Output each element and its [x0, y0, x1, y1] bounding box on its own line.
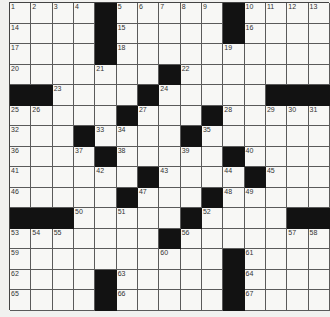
grid-cell[interactable] [245, 65, 266, 86]
grid-cell[interactable] [95, 106, 116, 127]
grid-cell[interactable]: 20 [10, 65, 31, 86]
grid-cell[interactable] [266, 249, 287, 270]
grid-cell[interactable] [309, 147, 330, 168]
grid-cell[interactable]: 66 [117, 290, 138, 311]
grid-cell[interactable] [245, 106, 266, 127]
grid-cell[interactable] [138, 147, 159, 168]
grid-cell[interactable] [266, 147, 287, 168]
grid-cell[interactable] [31, 188, 52, 209]
grid-cell[interactable] [202, 44, 223, 65]
grid-cell[interactable]: 54 [31, 229, 52, 250]
grid-cell[interactable] [138, 44, 159, 65]
grid-cell[interactable] [31, 270, 52, 291]
grid-cell[interactable]: 13 [309, 3, 330, 24]
grid-cell[interactable] [245, 229, 266, 250]
grid-cell[interactable] [159, 106, 180, 127]
grid-cell[interactable] [309, 249, 330, 270]
grid-cell[interactable] [309, 167, 330, 188]
grid-cell[interactable]: 33 [95, 126, 116, 147]
grid-cell[interactable] [202, 270, 223, 291]
grid-cell[interactable] [181, 44, 202, 65]
grid-cell[interactable] [181, 24, 202, 45]
grid-cell[interactable]: 10 [245, 3, 266, 24]
grid-cell[interactable]: 31 [309, 106, 330, 127]
grid-cell[interactable]: 30 [287, 106, 308, 127]
grid-cell[interactable]: 27 [138, 106, 159, 127]
grid-cell[interactable] [74, 290, 95, 311]
grid-cell[interactable] [74, 65, 95, 86]
grid-cell[interactable] [74, 167, 95, 188]
grid-cell[interactable]: 43 [159, 167, 180, 188]
grid-cell[interactable]: 37 [74, 147, 95, 168]
grid-cell[interactable] [53, 270, 74, 291]
grid-cell[interactable] [74, 270, 95, 291]
grid-cell[interactable] [287, 24, 308, 45]
grid-cell[interactable]: 2 [31, 3, 52, 24]
grid-cell[interactable]: 23 [53, 85, 74, 106]
grid-cell[interactable]: 5 [117, 3, 138, 24]
grid-cell[interactable]: 40 [245, 147, 266, 168]
grid-cell[interactable] [53, 126, 74, 147]
grid-cell[interactable] [159, 24, 180, 45]
grid-cell[interactable] [223, 65, 244, 86]
grid-cell[interactable]: 52 [202, 208, 223, 229]
grid-cell[interactable] [95, 208, 116, 229]
grid-cell[interactable]: 19 [223, 44, 244, 65]
grid-cell[interactable]: 7 [159, 3, 180, 24]
grid-cell[interactable] [95, 229, 116, 250]
grid-cell[interactable] [202, 167, 223, 188]
grid-cell[interactable]: 34 [117, 126, 138, 147]
grid-cell[interactable]: 32 [10, 126, 31, 147]
grid-cell[interactable]: 22 [181, 65, 202, 86]
grid-cell[interactable] [181, 270, 202, 291]
grid-cell[interactable] [266, 208, 287, 229]
grid-cell[interactable]: 16 [245, 24, 266, 45]
grid-cell[interactable]: 25 [10, 106, 31, 127]
grid-cell[interactable] [117, 249, 138, 270]
grid-cell[interactable]: 57 [287, 229, 308, 250]
grid-cell[interactable] [53, 44, 74, 65]
grid-cell[interactable] [138, 270, 159, 291]
grid-cell[interactable] [138, 249, 159, 270]
grid-cell[interactable]: 24 [159, 85, 180, 106]
grid-cell[interactable] [74, 249, 95, 270]
grid-cell[interactable] [138, 126, 159, 147]
grid-cell[interactable]: 17 [10, 44, 31, 65]
grid-cell[interactable]: 35 [202, 126, 223, 147]
grid-cell[interactable] [223, 229, 244, 250]
grid-cell[interactable] [287, 290, 308, 311]
grid-cell[interactable]: 26 [31, 106, 52, 127]
grid-cell[interactable] [95, 85, 116, 106]
grid-cell[interactable] [74, 229, 95, 250]
grid-cell[interactable] [31, 44, 52, 65]
grid-cell[interactable] [309, 126, 330, 147]
grid-cell[interactable] [159, 44, 180, 65]
grid-cell[interactable]: 36 [10, 147, 31, 168]
grid-cell[interactable] [309, 270, 330, 291]
grid-cell[interactable] [245, 44, 266, 65]
grid-cell[interactable]: 42 [95, 167, 116, 188]
grid-cell[interactable] [223, 208, 244, 229]
grid-cell[interactable] [287, 147, 308, 168]
grid-cell[interactable] [53, 290, 74, 311]
grid-cell[interactable]: 48 [223, 188, 244, 209]
grid-cell[interactable] [74, 85, 95, 106]
grid-cell[interactable] [202, 290, 223, 311]
grid-cell[interactable] [287, 249, 308, 270]
grid-cell[interactable] [53, 147, 74, 168]
grid-cell[interactable] [95, 188, 116, 209]
grid-cell[interactable]: 1 [10, 3, 31, 24]
grid-cell[interactable] [181, 290, 202, 311]
grid-cell[interactable] [266, 270, 287, 291]
grid-cell[interactable]: 60 [159, 249, 180, 270]
grid-cell[interactable]: 18 [117, 44, 138, 65]
grid-cell[interactable] [309, 65, 330, 86]
grid-cell[interactable]: 45 [266, 167, 287, 188]
grid-cell[interactable]: 65 [10, 290, 31, 311]
grid-cell[interactable] [202, 147, 223, 168]
grid-cell[interactable] [287, 44, 308, 65]
grid-cell[interactable] [53, 188, 74, 209]
grid-cell[interactable] [159, 147, 180, 168]
grid-cell[interactable] [138, 290, 159, 311]
grid-cell[interactable]: 3 [53, 3, 74, 24]
